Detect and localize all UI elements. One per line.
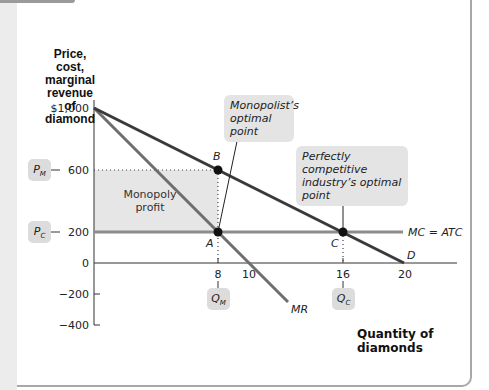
y-tick-600: 600 [68,164,89,177]
y-axis-title-line: revenue of [40,87,100,113]
demand-label: D [407,249,415,262]
badge-letter: Q [211,292,220,305]
region-label-line: profit [115,201,185,214]
x-axis-title: Quantity of diamonds [357,327,489,355]
point-a-label: A [205,237,214,250]
competitive-callout: Perfectly competitive industry’s optimal… [296,146,408,206]
monopoly-profit-label: Monopoly profit [115,188,185,214]
point-a [214,228,223,237]
badge-subscript: C [40,232,45,240]
callout-line: point [302,189,402,202]
point-c-label: C [331,237,339,250]
badge-letter: P [33,163,40,176]
y-tick-0: 0 [82,257,89,270]
region-label-line: Monopoly [115,188,185,201]
x-tick-10: 10 [242,268,256,281]
x-tick-8: 8 [215,268,222,281]
y-tick-200: 200 [68,226,89,239]
pm-badge: PM [28,159,51,181]
y-axis-title: Price, cost, marginal revenue of diamond [40,48,100,126]
pc-badge: PC [28,221,51,243]
x-tick-20: 20 [398,268,412,281]
point-b-label: B [213,150,221,163]
y-axis-title-line: diamond [40,113,100,126]
badge-subscript: M [220,299,226,307]
callout-line: Perfectly competitive [302,150,402,176]
callout-line: industry’s optimal [302,176,402,189]
qm-badge: QM [207,288,230,310]
badge-subscript: C [345,299,350,307]
y-tick-minus400: −400 [59,319,89,332]
point-c [339,228,348,237]
mc-atc-label: MC = ATC [408,226,463,239]
callout-line: Monopolist’s [230,99,288,112]
monopolist-callout: Monopolist’s optimal point [224,95,294,142]
badge-subscript: M [40,170,46,178]
x-tick-16: 16 [336,268,350,281]
callout-line: optimal point [230,112,288,138]
point-b [214,166,223,175]
qc-badge: QC [332,288,355,310]
y-axis-title-line: Price, cost, [40,48,100,74]
y-tick-minus200: −200 [59,288,89,301]
mr-label: MR [291,303,308,316]
